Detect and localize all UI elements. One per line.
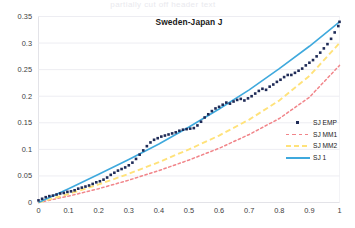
legend-label: SJ MM1 <box>313 129 337 141</box>
x-tick-label: 1 <box>328 206 352 215</box>
y-tick-label: 0.15 <box>2 118 32 127</box>
legend-swatch-icon <box>286 130 310 139</box>
series-sj-emp <box>37 21 341 202</box>
x-tick-label: 0.9 <box>297 206 321 215</box>
x-tick-label: 0.4 <box>147 206 171 215</box>
legend-label: SJ 1 <box>313 152 326 164</box>
legend-label: SJ MM2 <box>313 140 337 152</box>
x-tick-label: 0.2 <box>87 206 111 215</box>
y-tick-label: 0.2 <box>2 92 32 101</box>
y-tick-label: 0.25 <box>2 65 32 74</box>
y-tick-label: 0.35 <box>2 12 32 21</box>
legend-swatch-icon <box>286 141 310 150</box>
legend-swatch-icon <box>286 118 310 127</box>
legend-item-sj-1[interactable]: SJ 1 <box>286 152 337 164</box>
x-tick-label: 0 <box>27 206 51 215</box>
chart-container: partially cut off header text Sweden-Jap… <box>0 0 355 228</box>
legend-item-sj-emp[interactable]: SJ EMP <box>286 117 337 129</box>
x-tick-label: 0.8 <box>267 206 291 215</box>
x-tick-label: 0.6 <box>207 206 231 215</box>
legend-item-sj-mm2[interactable]: SJ MM2 <box>286 140 337 152</box>
x-tick-label: 0.3 <box>117 206 141 215</box>
x-tick-label: 0.7 <box>237 206 261 215</box>
series-sj-1 <box>39 22 340 203</box>
chart-legend: SJ EMPSJ MM1SJ MM2SJ 1 <box>286 117 337 163</box>
chart-canvas <box>0 0 355 228</box>
y-tick-label: 0.3 <box>2 39 32 48</box>
x-tick-label: 0.5 <box>177 206 201 215</box>
y-tick-label: 0.1 <box>2 145 32 154</box>
y-tick-label: 0.05 <box>2 171 32 180</box>
legend-label: SJ EMP <box>313 117 337 129</box>
x-tick-label: 0.1 <box>57 206 81 215</box>
legend-item-sj-mm1[interactable]: SJ MM1 <box>286 129 337 141</box>
legend-swatch-icon <box>286 153 310 162</box>
